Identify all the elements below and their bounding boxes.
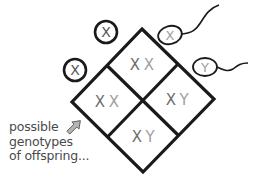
cell-left-paternal: X <box>109 93 119 111</box>
cell-left: X X <box>95 93 119 111</box>
cell-bottom-paternal: Y <box>144 128 155 146</box>
sperm-cell-2: Y <box>193 58 248 76</box>
egg-cell-2: X <box>64 59 86 81</box>
sperm-label-2: Y <box>200 60 209 75</box>
egg-label-2: X <box>70 62 80 78</box>
cell-top: X X <box>130 56 154 74</box>
cell-right-maternal: X <box>166 91 176 109</box>
egg-label-1: X <box>101 24 111 40</box>
cell-right-paternal: Y <box>178 91 189 109</box>
sperm-label-1: X <box>166 28 175 43</box>
caption-line-1: possible <box>9 120 89 135</box>
punnett-square-diagram: X X X Y X X X X X Y <box>0 0 257 181</box>
egg-cell-1: X <box>95 21 117 43</box>
cell-top-paternal: X <box>144 56 154 74</box>
cell-left-maternal: X <box>95 93 105 111</box>
caption-line-3: of offspring... <box>9 149 89 164</box>
cell-right: X Y <box>166 91 190 109</box>
punnett-grid <box>72 29 214 172</box>
cell-top-maternal: X <box>130 56 140 74</box>
offspring-caption: possible genotypes of offspring... <box>9 120 89 164</box>
cell-bottom: X Y <box>132 128 156 146</box>
cell-bottom-maternal: X <box>132 128 142 146</box>
sperm-cell-1: X <box>156 5 219 47</box>
caption-line-2: genotypes <box>9 135 89 150</box>
